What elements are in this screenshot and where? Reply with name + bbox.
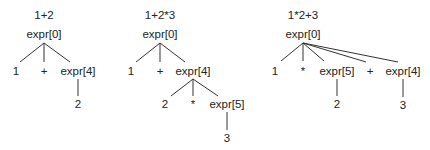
tree-3-child-4: + xyxy=(367,65,374,77)
edge xyxy=(193,79,218,96)
tree-2-grandchild-1: 2 xyxy=(162,98,168,110)
parse-tree-diagram: 1+2 expr[0] 1 + expr[4] 2 1+2*3 expr[0] … xyxy=(0,0,430,150)
tree-2-child-1: 1 xyxy=(128,65,134,77)
edge xyxy=(160,43,185,62)
edge xyxy=(303,43,366,62)
tree-1-grandchild-1: 2 xyxy=(75,98,81,110)
tree-1-child-3: expr[4] xyxy=(60,65,95,77)
edge xyxy=(20,43,44,62)
parse-tree-3: 1*2+3 expr[0] 1 * expr[5] + expr[4] 2 3 xyxy=(272,9,421,111)
tree-3-child-5: expr[4] xyxy=(385,65,420,77)
tree-1-title: 1+2 xyxy=(34,9,54,21)
tree-2-leaf: 3 xyxy=(224,132,230,144)
tree-3-root: expr[0] xyxy=(285,28,320,40)
edge xyxy=(136,43,160,62)
edge xyxy=(44,43,70,62)
edge xyxy=(281,43,303,61)
tree-2-root: expr[0] xyxy=(142,28,177,40)
tree-3-child-1: 1 xyxy=(272,65,278,77)
tree-2-child-2: + xyxy=(157,65,164,77)
tree-1-child-2: + xyxy=(41,65,48,77)
tree-3-child-2: * xyxy=(301,65,306,77)
parse-tree-1: 1+2 expr[0] 1 + expr[4] 2 xyxy=(13,9,96,110)
parse-tree-2: 1+2*3 expr[0] 1 + expr[4] 2 * expr[5] 3 xyxy=(128,9,245,144)
tree-2-child-3: expr[4] xyxy=(175,65,210,77)
tree-3-title: 1*2+3 xyxy=(288,9,318,21)
tree-3-grandchild-2: 3 xyxy=(400,99,406,111)
tree-2-title: 1+2*3 xyxy=(145,9,175,21)
tree-1-child-1: 1 xyxy=(13,65,19,77)
edge xyxy=(171,79,193,96)
tree-2-grandchild-3: expr[5] xyxy=(209,98,244,110)
tree-3-grandchild-1: 2 xyxy=(334,98,340,110)
tree-3-child-3: expr[5] xyxy=(319,65,354,77)
tree-1-root: expr[0] xyxy=(26,28,61,40)
edge xyxy=(303,43,398,62)
tree-2-grandchild-2: * xyxy=(191,98,196,110)
